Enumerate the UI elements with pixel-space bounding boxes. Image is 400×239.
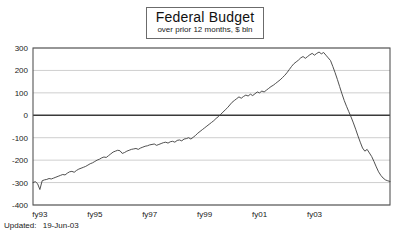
y-axis-tick-label: 200 xyxy=(15,66,29,75)
x-axis-tick-label: fy97 xyxy=(142,210,158,219)
x-axis-tick-label: fy95 xyxy=(87,210,103,219)
chart-plot-area: 3002001000-100-200-300-400 fy93fy95fy97f… xyxy=(0,0,400,239)
y-axis-tick-label: 0 xyxy=(24,111,29,120)
y-axis-tick-label: -200 xyxy=(12,156,29,165)
x-axis-labels: fy93fy95fy97fy99fy01fy03 xyxy=(32,210,322,219)
footer-updated-value: 19-Jun-03 xyxy=(43,221,79,230)
plot-frame xyxy=(33,48,390,205)
gridlines xyxy=(33,48,390,205)
y-axis-tick-label: -400 xyxy=(12,201,29,210)
x-axis-tick-label: fy99 xyxy=(197,210,213,219)
y-axis-tick-label: 100 xyxy=(15,89,29,98)
y-axis-tick-label: 300 xyxy=(15,44,29,53)
chart-container: Federal Budget over prior 12 months, $ b… xyxy=(0,0,400,239)
footer-updated-label: Updated: xyxy=(4,221,36,230)
x-axis-tick-label: fy03 xyxy=(307,210,323,219)
y-axis-labels: 3002001000-100-200-300-400 xyxy=(12,44,29,210)
y-axis-tick-label: -300 xyxy=(12,179,29,188)
y-axis-tick-label: -100 xyxy=(12,134,29,143)
footer-updated: Updated: 19-Jun-03 xyxy=(4,221,79,230)
x-axis-tick-label: fy01 xyxy=(252,210,268,219)
x-axis-tick-label: fy93 xyxy=(32,210,48,219)
budget-line-series xyxy=(33,52,390,189)
